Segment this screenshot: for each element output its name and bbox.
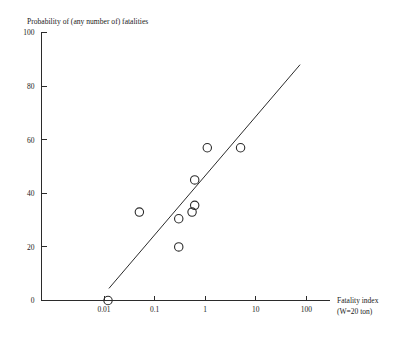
- chart-title: Probability of (any number of) fatalitie…: [27, 17, 148, 26]
- y-axis-tick-labels: 020406080100: [23, 28, 35, 305]
- x-tick-label: 10: [252, 305, 260, 314]
- data-point: [190, 176, 198, 184]
- y-axis-ticks: [42, 33, 47, 301]
- x-tick-label: 1: [203, 305, 207, 314]
- x-tick-label: 100: [301, 305, 313, 314]
- x-axis-title-second-line: (W=20 ton): [337, 307, 373, 316]
- y-tick-label: 60: [27, 136, 35, 145]
- y-tick-label: 20: [27, 243, 35, 252]
- data-point: [175, 243, 183, 251]
- y-tick-label: 0: [31, 296, 35, 305]
- x-tick-label: 0.1: [150, 305, 160, 314]
- data-point: [203, 144, 211, 152]
- data-point: [175, 215, 183, 223]
- trend-line: [109, 65, 300, 289]
- x-tick-label: 0.01: [97, 305, 110, 314]
- x-axis-ticks: [104, 296, 306, 301]
- x-axis-tick-labels: 0.010.1110100: [97, 305, 312, 314]
- y-tick-label: 80: [27, 82, 35, 91]
- fitted-trend-line: [109, 65, 300, 289]
- data-point: [135, 208, 143, 216]
- y-tick-label: 100: [23, 28, 35, 37]
- y-tick-label: 40: [27, 189, 35, 198]
- x-axis-title: Fatality index: [337, 296, 379, 305]
- data-point-markers: [104, 144, 245, 305]
- chart-container: Probability of (any number of) fatalitie…: [0, 0, 402, 344]
- scatter-plot: Probability of (any number of) fatalitie…: [0, 0, 402, 344]
- data-point: [236, 144, 244, 152]
